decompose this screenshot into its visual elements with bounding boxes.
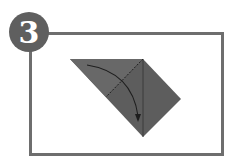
step-number: 3 (19, 15, 40, 50)
origami-step-diagram: 3 (0, 0, 235, 166)
step-badge: 3 (9, 12, 49, 52)
folded-paper (70, 59, 181, 137)
